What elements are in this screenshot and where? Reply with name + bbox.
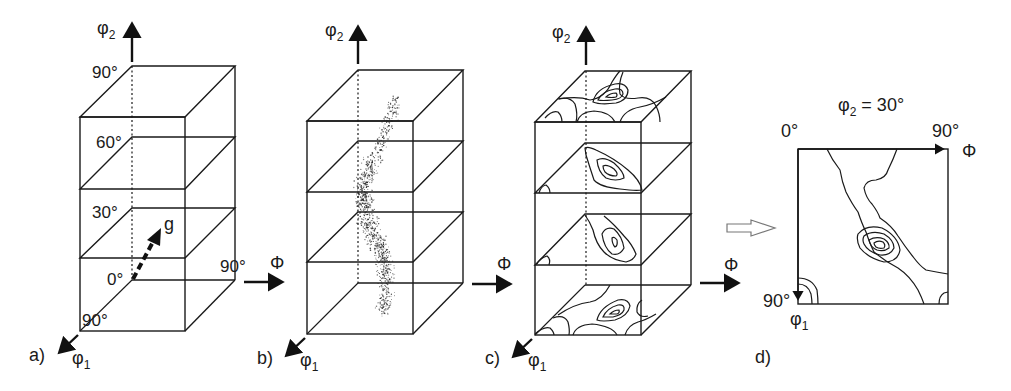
phi-axis-label: Φ (962, 141, 976, 161)
section-contours (798, 149, 948, 304)
phi1-axis-label: φ1 (72, 348, 91, 372)
panel-c: φ2 (485, 22, 738, 374)
phi2-tick-90: 90° (92, 63, 118, 82)
panel-a-label: a) (29, 345, 45, 365)
phi-axis-label: Φ (497, 254, 511, 274)
phi-tick-90: 90° (220, 257, 246, 276)
panel-d: φ2 = 30° 0° 90° Φ 90° φ1 d) (727, 95, 976, 367)
panel-a: φ2 90° 60° 30° 0° 90° 90° (29, 18, 284, 372)
box-a (80, 66, 235, 331)
g-vector-head (147, 228, 161, 246)
box-c (535, 71, 691, 335)
phi2-tick-0: 0° (107, 270, 123, 289)
panel-c-label: c) (485, 348, 500, 368)
phi-tick-90: 90° (932, 121, 959, 141)
phi2-axis-label: φ2 (325, 20, 344, 44)
g-vector-arrow-icon (133, 240, 154, 279)
transition-hollow-arrow-icon (727, 220, 775, 236)
contour-slice-0 (535, 285, 656, 335)
phi-axis-label: Φ (724, 255, 738, 275)
phi2-tick-30: 30° (92, 203, 118, 222)
phi1-axis-label: φ1 (528, 350, 547, 374)
origin-tick-0: 0° (781, 121, 798, 141)
g-vector-label: g (164, 214, 174, 234)
phi1-tick-90: 90° (763, 291, 790, 311)
euler-space-figure: φ2 90° 60° 30° 0° 90° 90° (0, 0, 1011, 391)
phi1-axis-label: φ1 (790, 309, 809, 333)
phi2-tick-60: 60° (96, 133, 122, 152)
phi1-axis-label: φ1 (300, 350, 319, 374)
panel-b: φ2 Φ φ1 b) (257, 20, 511, 374)
phi-axis-label: Φ (270, 253, 284, 273)
phi1-tick-90: 90° (82, 311, 108, 330)
phi2-axis-label: φ2 (552, 22, 571, 46)
box-b (307, 70, 463, 334)
section-title: φ2 = 30° (838, 95, 904, 119)
phi2-axis-label: φ2 (97, 18, 116, 42)
panel-b-label: b) (257, 348, 273, 368)
contour-slice-60 (539, 147, 642, 193)
panel-d-label: d) (755, 347, 771, 367)
